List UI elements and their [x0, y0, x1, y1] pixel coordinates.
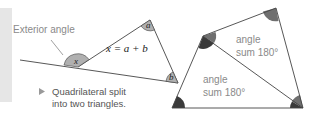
bullet-triangle-icon [39, 88, 45, 95]
lower-triangle-label-line1: angle [203, 74, 228, 85]
lower-triangle-label-line2: sum 180° [203, 87, 245, 98]
formula-label: x = a + b [105, 42, 148, 54]
caption-line-1: Quadrilateral split [52, 86, 126, 97]
angle-a-label: a [146, 20, 151, 30]
quadrilateral: angle sum 180° angle sum 180° [172, 8, 303, 108]
angle-x-label: x [73, 56, 78, 66]
exterior-angle-triangle: Exterior angle x a b x = a + b [13, 20, 178, 83]
caption-line-2: into two triangles. [52, 98, 126, 109]
angle-marker-bottomleft [172, 96, 185, 108]
upper-triangle-label-line2: sum 180° [236, 47, 278, 58]
exterior-angle-label: Exterior angle [13, 24, 75, 35]
pointer-arrow [51, 40, 63, 55]
geometry-diagram: Exterior angle x a b x = a + b Quadrilat… [0, 0, 318, 113]
angle-b-label: b [169, 72, 174, 82]
caption: Quadrilateral split into two triangles. [39, 86, 126, 109]
upper-triangle-label-line1: angle [236, 34, 261, 45]
